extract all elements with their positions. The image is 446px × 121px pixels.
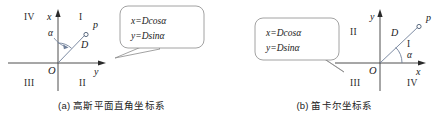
- callout-box: [255, 18, 339, 60]
- point-marker: [84, 32, 88, 36]
- vertical-axis-arrowhead: [55, 9, 60, 17]
- origin-label: O: [369, 65, 377, 76]
- panel-b-caption: (b) 笛卡尔坐标系: [223, 98, 446, 112]
- quadrant-label-lower-right: II: [79, 78, 86, 88]
- quadrant-label-upper-left: II: [350, 27, 357, 37]
- horizontal-axis-arrowhead: [418, 60, 426, 65]
- callout-box: [120, 6, 204, 48]
- quadrant-label-upper-right: I: [79, 12, 82, 22]
- vertical-axis-label: y: [369, 11, 375, 22]
- angle-label: α: [407, 50, 413, 60]
- figure-root: x y O IV I III II p D α: [0, 0, 446, 121]
- quadrant-label-lower-right: IV: [407, 78, 418, 88]
- quadrant-label-lower-left: III: [24, 78, 34, 88]
- horizontal-axis-label: x: [415, 66, 421, 77]
- angle-arc: [396, 47, 402, 63]
- angle-label: α: [48, 28, 54, 38]
- panel-gauss-coordinate-system: x y O IV I III II p D α: [0, 0, 223, 121]
- radius-ray-line: [380, 27, 418, 63]
- distance-label: D: [80, 39, 89, 50]
- horizontal-axis-label: y: [93, 66, 99, 77]
- callout-formula-y: y=Dsinα: [265, 43, 301, 53]
- panel-a-caption: (a) 高斯平面直角坐标系: [0, 98, 223, 112]
- point-label: p: [425, 12, 431, 23]
- quadrant-label-lower-left: III: [350, 78, 360, 88]
- callout-formula-x: x=Dcosα: [265, 28, 302, 38]
- panel-cartesian-coordinate-system: y x O II I III IV p D α: [223, 0, 446, 121]
- vertical-axis-label: x: [46, 11, 52, 22]
- point-marker: [417, 24, 421, 28]
- quadrant-label-upper-left: IV: [24, 12, 35, 22]
- quadrant-label-upper-right: I: [407, 39, 410, 49]
- origin-label: O: [48, 65, 56, 76]
- callout-formula-x: x=Dcosα: [130, 16, 167, 26]
- callout-formula-y: y=Dsinα: [130, 31, 166, 41]
- distance-label: D: [390, 27, 399, 38]
- panel-b-diagram: y x O II I III IV p D α: [223, 0, 446, 100]
- point-label: p: [92, 19, 98, 30]
- horizontal-axis-arrowhead: [98, 60, 106, 65]
- panel-a-diagram: x y O IV I III II p D α: [0, 0, 223, 100]
- vertical-axis-arrowhead: [377, 9, 382, 17]
